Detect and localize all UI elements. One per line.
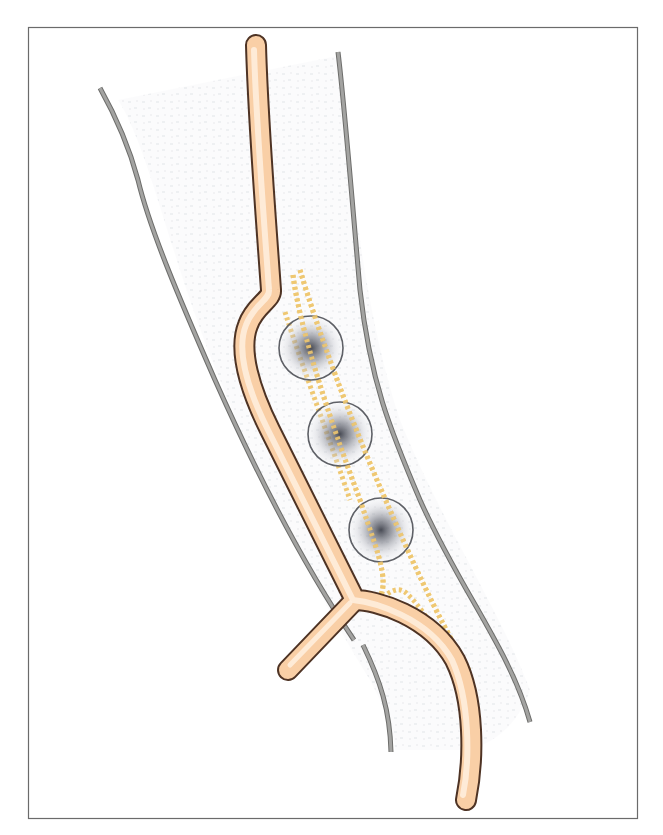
lymph-node-2 (308, 402, 372, 466)
lymph-node-1 (279, 316, 343, 380)
diagram-canvas (0, 0, 663, 835)
lymph-node-3 (349, 498, 413, 562)
